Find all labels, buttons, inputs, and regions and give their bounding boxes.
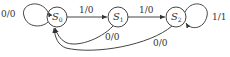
state-s2: S2 [166, 7, 186, 27]
transition-s1-s2: 1/0 [128, 5, 165, 17]
transition-s2-s2: 1/1 [185, 4, 226, 28]
svg-text:1/0: 1/0 [79, 5, 94, 15]
svg-text:0/0: 0/0 [153, 38, 168, 48]
transition-s0-s1: 1/0 [67, 5, 107, 17]
svg-text:1/0: 1/0 [139, 5, 154, 15]
svg-text:1/1: 1/1 [212, 12, 226, 22]
transition-s0-s0: 0/0 [1, 4, 48, 26]
state-s1: S1 [108, 7, 128, 27]
transition-s1-s0: 0/0 [55, 26, 120, 44]
state-diagram: S0 S1 S2 0/0 1/0 1/0 1/1 0/0 0/0 [0, 0, 230, 57]
svg-text:0/0: 0/0 [105, 32, 120, 42]
state-s0: S0 [47, 7, 67, 27]
svg-text:0/0: 0/0 [1, 9, 16, 19]
